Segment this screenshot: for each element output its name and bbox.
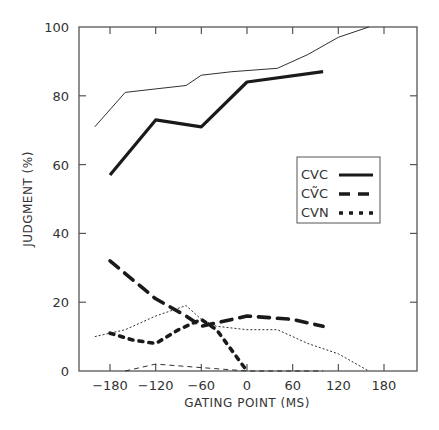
series-line [95,27,369,127]
series-line [125,364,323,371]
y-tick-label: 40 [52,226,69,241]
series-line [95,306,369,371]
y-axis-title: JUDGMENT (%) [21,151,35,248]
x-tick-label: 60 [284,378,301,393]
y-tick-label: 60 [52,158,69,173]
legend-label: CVN [301,205,329,220]
x-axis-title: GATING POINT (MS) [184,396,310,410]
series-line [110,72,323,175]
x-tick-label: −180 [92,378,128,393]
y-tick-label: 20 [52,295,69,310]
x-tick-label: −60 [188,378,215,393]
x-tick-label: 0 [243,378,251,393]
x-tick-label: 120 [326,378,351,393]
x-tick-label: 180 [372,378,397,393]
y-tick-label: 0 [61,364,69,379]
x-tick-label: −120 [138,378,174,393]
series-line [110,261,323,326]
line-chart: −180−120−60060120180020406080100 CVCCṼC… [0,0,439,430]
y-tick-label: 80 [52,89,69,104]
legend-label: CṼC [301,186,328,201]
legend: CVCCṼCCVN [297,157,380,223]
y-tick-label: 100 [44,20,69,35]
legend-label: CVC [301,167,328,182]
